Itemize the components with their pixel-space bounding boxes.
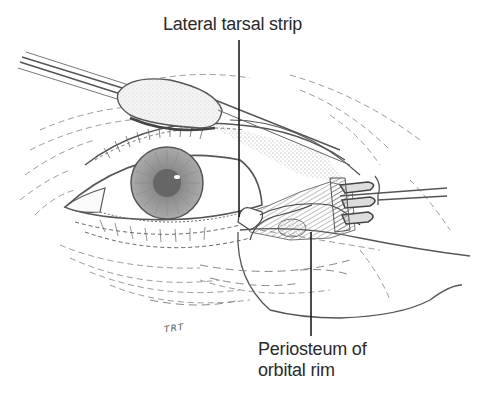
label-periosteum-line2: orbital rim [258, 360, 366, 381]
lower-lid [75, 220, 250, 248]
label-periosteum-of-orbital-rim: Periosteum of orbital rim [258, 339, 366, 381]
illustration-drawing [0, 0, 497, 403]
suture-line [238, 229, 470, 318]
pupil [153, 169, 181, 197]
rake-retractor [330, 176, 447, 232]
surgical-illustration: Lateral tarsal strip Periosteum of orbit… [0, 0, 497, 403]
label-lateral-tarsal-strip: Lateral tarsal strip [163, 14, 302, 35]
pupil-highlight [174, 175, 180, 179]
label-periosteum-line1: Periosteum of [258, 339, 366, 360]
